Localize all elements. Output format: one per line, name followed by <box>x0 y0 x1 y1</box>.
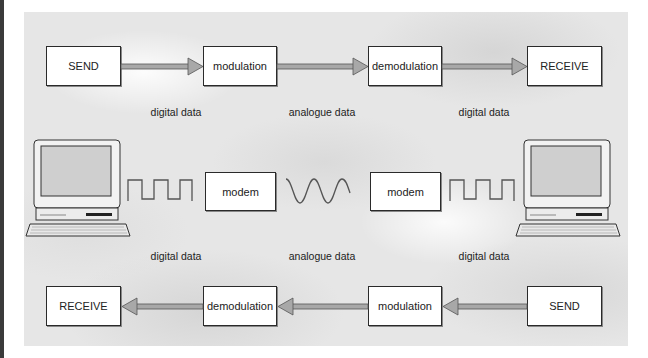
bottom-arrows <box>0 0 648 358</box>
